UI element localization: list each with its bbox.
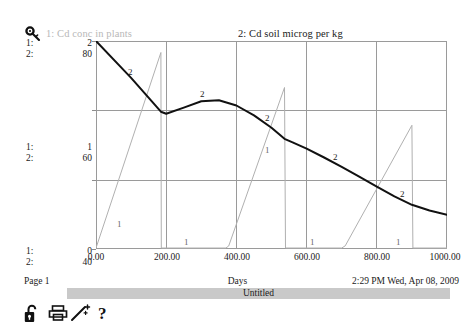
x-tick-label-200: 200.00: [137, 252, 197, 262]
timestamp: 2:29 PM Wed, Apr 08, 2009: [352, 276, 459, 286]
x-tick-label-1000: 1000.00: [415, 252, 475, 262]
axis-stack-top-value: 2 80: [72, 38, 92, 59]
svg-text:2: 2: [128, 67, 133, 77]
svg-text:2: 2: [333, 152, 338, 162]
axis-stack-mid-value: 1 60: [72, 142, 92, 163]
svg-text:2: 2: [200, 89, 205, 99]
axis-stack-top-index: 1: 2:: [26, 38, 44, 59]
grid: [97, 42, 447, 249]
x-tick-label-600: 600.00: [277, 252, 337, 262]
svg-text:1: 1: [310, 237, 315, 247]
help-button[interactable]: ?: [98, 305, 107, 323]
svg-text:2: 2: [400, 189, 405, 199]
magic-wand-icon[interactable]: [70, 303, 92, 327]
legend-item-series2[interactable]: 2: Cd soil microg per kg: [238, 28, 343, 39]
x-tick-label-800: 800.00: [347, 252, 407, 262]
plot-area: 1 1 1 1 1 2 2 2 2 2: [96, 41, 447, 249]
x-tick-label-400: 400.00: [207, 252, 267, 262]
svg-text:1: 1: [117, 219, 122, 229]
printer-icon[interactable]: [48, 303, 68, 327]
svg-text:1: 1: [265, 145, 270, 155]
plot-svg: 1 1 1 1 1 2 2 2 2 2: [96, 41, 447, 249]
axis-stack-bottom-index: 1: 2:: [26, 246, 44, 267]
padlock-open-icon[interactable]: [24, 303, 40, 327]
chart-page: 1: Cd conc in plants 2: Cd soil microg p…: [0, 0, 475, 330]
y-tick-bottom: [92, 249, 96, 250]
series-2-line: [96, 41, 447, 215]
document-title: Untitled: [67, 288, 450, 299]
series-1-line: [96, 53, 447, 249]
svg-text:1: 1: [184, 237, 189, 247]
svg-text:2: 2: [265, 113, 270, 123]
axis-stack-mid-index: 1: 2:: [26, 142, 44, 163]
document-title-bar[interactable]: Untitled: [67, 288, 450, 299]
svg-text:1: 1: [396, 237, 401, 247]
x-tick-label-0: 0.00: [66, 252, 126, 262]
legend: 1: Cd conc in plants 2: Cd soil microg p…: [0, 12, 475, 34]
